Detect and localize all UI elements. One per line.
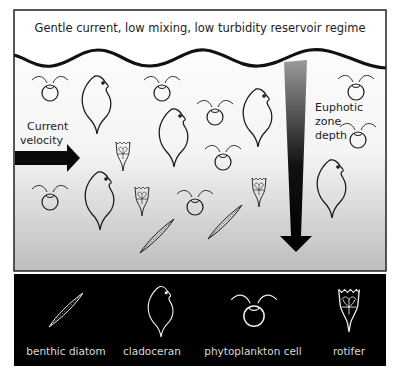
water-panel: Gentle current, low mixing, low turbidit… — [14, 10, 386, 271]
legend-panel: benthic diatom cladoceran phytoplankton … — [14, 274, 386, 366]
legend-label-diatom: benthic diatom — [26, 345, 105, 357]
reservoir-diagram: Gentle current, low mixing, low turbidit… — [0, 0, 397, 376]
diagram-title: Gentle current, low mixing, low turbidit… — [35, 21, 366, 35]
legend-label-phytoplankton: phytoplankton cell — [204, 345, 301, 357]
legend-label-cladoceran: cladoceran — [123, 345, 181, 357]
legend-label-rotifer: rotifer — [333, 345, 366, 357]
